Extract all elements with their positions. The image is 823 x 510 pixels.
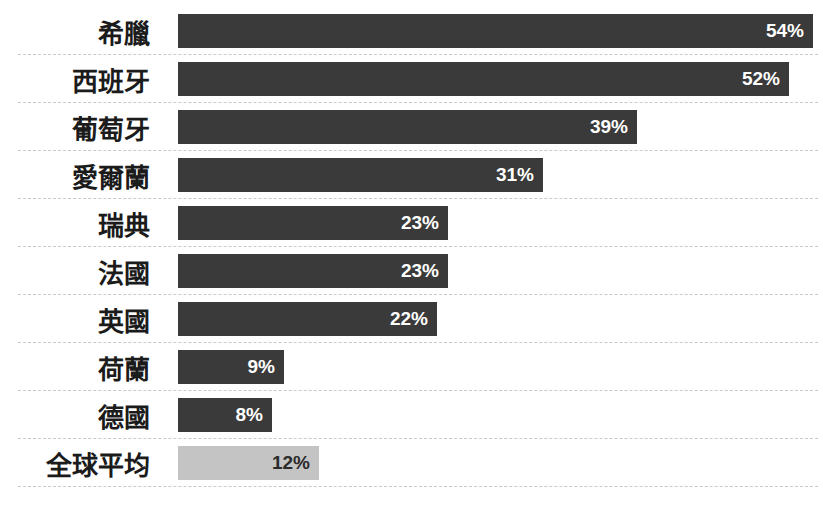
row-separator bbox=[18, 390, 818, 391]
bar-value-label: 8% bbox=[236, 398, 263, 432]
category-label: 全球平均 bbox=[0, 446, 150, 486]
bar-track: 23% bbox=[178, 254, 448, 288]
bar-track: 31% bbox=[178, 158, 543, 192]
bar: 22% bbox=[178, 302, 437, 336]
bar: 12% bbox=[178, 446, 319, 480]
bar-row: 希臘54% bbox=[0, 14, 823, 62]
row-separator bbox=[18, 54, 818, 55]
bar-value-label: 52% bbox=[742, 62, 780, 96]
bar-track: 12% bbox=[178, 446, 319, 480]
bar-row: 西班牙52% bbox=[0, 62, 823, 110]
bar-track: 54% bbox=[178, 14, 813, 48]
row-separator bbox=[18, 246, 818, 247]
bar: 52% bbox=[178, 62, 789, 96]
bar-row: 瑞典23% bbox=[0, 206, 823, 254]
bar-row: 英國22% bbox=[0, 302, 823, 350]
bar-value-label: 23% bbox=[401, 206, 439, 240]
bar-value-label: 22% bbox=[390, 302, 428, 336]
category-label: 法國 bbox=[0, 254, 150, 294]
bar-row: 全球平均12% bbox=[0, 446, 823, 494]
row-separator bbox=[18, 438, 818, 439]
bar-row: 荷蘭9% bbox=[0, 350, 823, 398]
row-separator bbox=[18, 102, 818, 103]
bar: 39% bbox=[178, 110, 637, 144]
horizontal-bar-chart: 希臘54%西班牙52%葡萄牙39%愛爾蘭31%瑞典23%法國23%英國22%荷蘭… bbox=[0, 0, 823, 510]
bar-track: 23% bbox=[178, 206, 448, 240]
bar: 9% bbox=[178, 350, 284, 384]
bar: 8% bbox=[178, 398, 272, 432]
category-label: 葡萄牙 bbox=[0, 110, 150, 150]
bar-row: 愛爾蘭31% bbox=[0, 158, 823, 206]
bar-track: 8% bbox=[178, 398, 272, 432]
bar-track: 9% bbox=[178, 350, 284, 384]
row-separator bbox=[18, 150, 818, 151]
row-separator bbox=[18, 198, 818, 199]
category-label: 西班牙 bbox=[0, 62, 150, 102]
category-label: 英國 bbox=[0, 302, 150, 342]
bar-value-label: 23% bbox=[401, 254, 439, 288]
category-label: 瑞典 bbox=[0, 206, 150, 246]
category-label: 荷蘭 bbox=[0, 350, 150, 390]
bar: 54% bbox=[178, 14, 813, 48]
category-label: 德國 bbox=[0, 398, 150, 438]
bar-value-label: 54% bbox=[766, 14, 804, 48]
category-label: 愛爾蘭 bbox=[0, 158, 150, 198]
row-separator bbox=[18, 294, 818, 295]
bar: 23% bbox=[178, 254, 448, 288]
bar-row: 德國8% bbox=[0, 398, 823, 446]
bar: 23% bbox=[178, 206, 448, 240]
row-separator bbox=[18, 486, 818, 487]
bar-row: 葡萄牙39% bbox=[0, 110, 823, 158]
bar-value-label: 9% bbox=[248, 350, 275, 384]
bar-track: 39% bbox=[178, 110, 637, 144]
bar-value-label: 31% bbox=[496, 158, 534, 192]
category-label: 希臘 bbox=[0, 14, 150, 54]
row-separator bbox=[18, 342, 818, 343]
bar-track: 52% bbox=[178, 62, 789, 96]
bar-value-label: 12% bbox=[272, 446, 310, 480]
bar-track: 22% bbox=[178, 302, 437, 336]
bar-row: 法國23% bbox=[0, 254, 823, 302]
bar: 31% bbox=[178, 158, 543, 192]
bar-value-label: 39% bbox=[590, 110, 628, 144]
